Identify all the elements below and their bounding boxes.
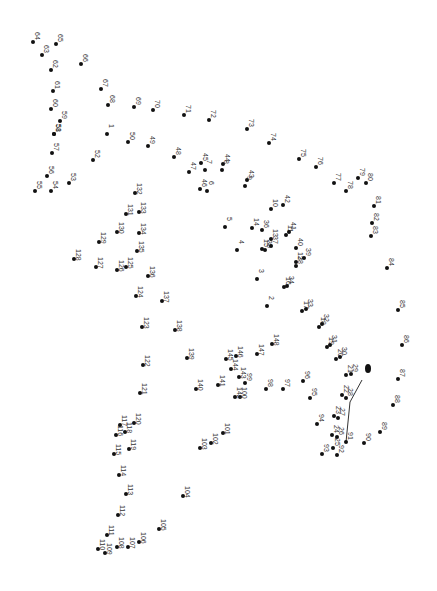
puzzle-dot[interactable]: [50, 151, 54, 155]
puzzle-dot[interactable]: [49, 68, 53, 72]
dot-number-label: 62: [52, 60, 59, 68]
puzzle-dot[interactable]: [308, 396, 312, 400]
puzzle-dot[interactable]: [356, 176, 360, 180]
puzzle-dot[interactable]: [372, 204, 376, 208]
puzzle-dot[interactable]: [314, 165, 318, 169]
puzzle-dot[interactable]: [400, 343, 404, 347]
puzzle-dot[interactable]: [344, 189, 348, 193]
puzzle-dot[interactable]: [396, 377, 400, 381]
puzzle-dot[interactable]: [203, 168, 207, 172]
puzzle-dot[interactable]: [79, 62, 83, 66]
puzzle-dot[interactable]: [328, 343, 332, 347]
puzzle-dot[interactable]: [250, 226, 254, 230]
puzzle-dot[interactable]: [281, 203, 285, 207]
dot-number-label: 40: [297, 238, 304, 246]
puzzle-dot[interactable]: [391, 403, 395, 407]
puzzle-dot[interactable]: [33, 189, 37, 193]
puzzle-dot[interactable]: [51, 89, 55, 93]
puzzle-dot[interactable]: [182, 113, 186, 117]
puzzle-dot[interactable]: [263, 248, 267, 252]
puzzle-dot[interactable]: [91, 158, 95, 162]
puzzle-dot[interactable]: [331, 446, 335, 450]
puzzle-dot[interactable]: [320, 322, 324, 326]
puzzle-dot[interactable]: [304, 307, 308, 311]
puzzle-dot[interactable]: [243, 184, 247, 188]
dot-number-label: 28: [347, 388, 354, 396]
puzzle-dot[interactable]: [198, 187, 202, 191]
puzzle-dot[interactable]: [385, 266, 389, 270]
puzzle-dot[interactable]: [49, 189, 53, 193]
puzzle-dot[interactable]: [126, 140, 130, 144]
puzzle-dot[interactable]: [294, 264, 298, 268]
puzzle-dot[interactable]: [264, 387, 268, 391]
dot-number-label: 26: [338, 427, 345, 435]
puzzle-dot[interactable]: [187, 170, 191, 174]
puzzle-dot[interactable]: [221, 162, 225, 166]
puzzle-dot[interactable]: [269, 207, 273, 211]
dot-number-label: 75: [300, 149, 307, 157]
puzzle-dot[interactable]: [281, 387, 285, 391]
puzzle-dot[interactable]: [336, 416, 340, 420]
puzzle-dot[interactable]: [349, 372, 353, 376]
dot-number-label: 123: [143, 317, 150, 329]
puzzle-dot[interactable]: [220, 168, 224, 172]
puzzle-dot[interactable]: [67, 181, 71, 185]
puzzle-dot[interactable]: [52, 132, 56, 136]
puzzle-dot[interactable]: [294, 246, 298, 250]
puzzle-dot[interactable]: [245, 127, 249, 131]
puzzle-dot[interactable]: [132, 105, 136, 109]
puzzle-dot[interactable]: [297, 157, 301, 161]
puzzle-dot[interactable]: [146, 144, 150, 148]
puzzle-dot[interactable]: [58, 119, 62, 123]
puzzle-dot[interactable]: [235, 248, 239, 252]
puzzle-dot[interactable]: [267, 141, 271, 145]
puzzle-dot[interactable]: [151, 108, 155, 112]
puzzle-dot[interactable]: [335, 453, 339, 457]
puzzle-dot[interactable]: [54, 42, 58, 46]
puzzle-dot[interactable]: [370, 221, 374, 225]
puzzle-dot[interactable]: [260, 228, 264, 232]
puzzle-dot[interactable]: [245, 178, 249, 182]
puzzle-dot[interactable]: [255, 277, 259, 281]
puzzle-dot[interactable]: [207, 118, 211, 122]
puzzle-dot[interactable]: [364, 181, 368, 185]
puzzle-dot[interactable]: [344, 373, 348, 377]
puzzle-dot[interactable]: [105, 132, 109, 136]
puzzle-dot[interactable]: [320, 452, 324, 456]
puzzle-dot[interactable]: [315, 422, 319, 426]
dot-number-label: 74: [270, 133, 277, 141]
puzzle-dot[interactable]: [45, 174, 49, 178]
puzzle-dot[interactable]: [332, 181, 336, 185]
puzzle-dot[interactable]: [199, 161, 203, 165]
dot-number-label: 97: [284, 379, 291, 387]
puzzle-dot[interactable]: [369, 234, 373, 238]
puzzle-dot[interactable]: [172, 155, 176, 159]
puzzle-dot[interactable]: [335, 435, 339, 439]
puzzle-dot[interactable]: [205, 189, 209, 193]
puzzle-dot[interactable]: [338, 355, 342, 359]
puzzle-dot[interactable]: [378, 430, 382, 434]
puzzle-dot[interactable]: [223, 225, 227, 229]
dot-number-label: 2: [268, 296, 275, 300]
dot-number-label: 88: [394, 395, 401, 403]
puzzle-dot[interactable]: [49, 107, 53, 111]
puzzle-dot[interactable]: [99, 87, 103, 91]
puzzle-dot[interactable]: [40, 53, 44, 57]
puzzle-dot[interactable]: [287, 230, 291, 234]
puzzle-dot[interactable]: [301, 379, 305, 383]
puzzle-dot[interactable]: [344, 440, 348, 444]
puzzle-dot[interactable]: [106, 103, 110, 107]
puzzle-dot[interactable]: [31, 40, 35, 44]
puzzle-dot[interactable]: [362, 441, 366, 445]
dot-number-label: 127: [97, 257, 104, 269]
puzzle-dot[interactable]: [344, 396, 348, 400]
dot-number-label: 58: [55, 124, 62, 132]
puzzle-dot[interactable]: [396, 308, 400, 312]
dot-number-label: 44: [224, 154, 231, 162]
puzzle-dot[interactable]: [302, 256, 306, 260]
puzzle-dot[interactable]: [285, 284, 289, 288]
puzzle-dot[interactable]: [243, 381, 247, 385]
puzzle-dot[interactable]: [330, 433, 334, 437]
puzzle-dot[interactable]: [269, 244, 273, 248]
puzzle-dot[interactable]: [265, 304, 269, 308]
